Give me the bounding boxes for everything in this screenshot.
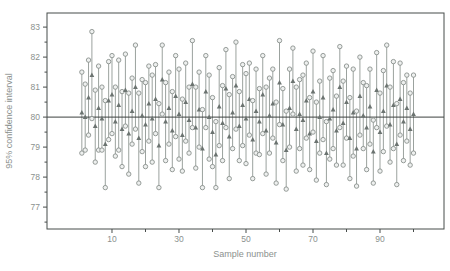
sample-mean-marker [230, 110, 235, 114]
sample-mean-marker [264, 128, 269, 132]
ci-upper-marker [311, 49, 315, 53]
ci-lower-marker [157, 185, 161, 189]
ci-lower-marker [210, 164, 214, 168]
ci-upper-marker [204, 53, 208, 57]
ci-lower-marker [140, 149, 144, 153]
ci-upper-marker [358, 55, 362, 59]
sample-mean-marker [297, 112, 302, 116]
ci-lower-marker [388, 160, 392, 164]
ci-upper-marker [116, 58, 120, 62]
ci-upper-marker [318, 79, 322, 83]
ci-lower-marker [338, 125, 342, 129]
ci-upper-marker [214, 119, 218, 123]
sample-mean-marker [167, 106, 172, 110]
ci-lower-marker [307, 167, 311, 171]
ci-upper-marker [351, 67, 355, 71]
sample-mean-marker [177, 112, 182, 116]
ci-lower-marker [106, 137, 110, 141]
sample-mean-marker [227, 134, 232, 138]
sample-mean-marker [294, 127, 299, 131]
ci-upper-marker [237, 89, 241, 93]
sample-mean-marker [381, 109, 386, 113]
ci-lower-marker [341, 163, 345, 167]
ci-upper-marker [133, 43, 137, 47]
ci-lower-marker [224, 125, 228, 129]
ci-figure: 103050709077787980818283 Sample number 9… [0, 0, 450, 271]
ci-upper-marker [96, 64, 100, 68]
ci-lower-marker [100, 148, 104, 152]
ci-lower-marker [274, 181, 278, 185]
y-tick-label: 78 [31, 172, 41, 182]
ci-upper-marker [287, 67, 291, 71]
ci-lower-marker [361, 146, 365, 150]
ci-upper-marker [220, 83, 224, 87]
ci-upper-marker [257, 86, 261, 90]
ci-upper-marker [348, 95, 352, 99]
ci-chart: 103050709077787980818283 Sample number 9… [0, 0, 450, 271]
ci-lower-marker [167, 142, 171, 146]
ci-upper-marker [167, 70, 171, 74]
ci-lower-marker [83, 148, 87, 152]
ci-upper-marker [106, 59, 110, 63]
ci-lower-marker [321, 137, 325, 141]
ci-lower-marker [348, 176, 352, 180]
sample-mean-marker [156, 143, 161, 147]
sample-mean-marker [358, 94, 363, 98]
y-tick-label: 77 [31, 202, 41, 212]
y-tick-label: 79 [31, 142, 41, 152]
sample-mean-marker [116, 103, 121, 107]
sample-mean-marker [331, 107, 336, 111]
ci-upper-marker [301, 73, 305, 77]
ci-upper-marker [90, 29, 94, 33]
ci-upper-marker [210, 95, 214, 99]
sample-mean-marker [133, 85, 138, 89]
sample-mean-marker [136, 136, 141, 140]
sample-mean-marker [79, 110, 84, 114]
ci-upper-marker [153, 62, 157, 66]
ci-lower-marker [358, 133, 362, 137]
ci-upper-marker [354, 109, 358, 113]
ci-upper-marker [197, 70, 201, 74]
ci-upper-marker [267, 76, 271, 80]
ci-upper-marker [314, 100, 318, 104]
sample-mean-marker [96, 106, 101, 110]
ci-lower-marker [217, 143, 221, 147]
ci-upper-marker [364, 83, 368, 87]
ci-upper-marker [190, 38, 194, 42]
x-tick-label: 50 [241, 234, 251, 244]
ci-lower-marker [324, 182, 328, 186]
x-tick-label: 70 [308, 234, 318, 244]
ci-lower-marker [150, 160, 154, 164]
y-tick-label: 82 [31, 52, 41, 62]
ci-upper-marker [143, 80, 147, 84]
sample-mean-marker [274, 140, 279, 144]
ci-lower-marker [294, 169, 298, 173]
sample-mean-marker [337, 85, 342, 89]
ci-upper-marker [395, 101, 399, 105]
ci-upper-marker [110, 53, 114, 57]
ci-lower-marker [204, 125, 208, 129]
sample-mean-marker [371, 149, 376, 153]
ci-upper-marker [321, 53, 325, 57]
sample-mean-marker [314, 139, 319, 143]
ci-lower-marker [173, 134, 177, 138]
ci-upper-marker [344, 64, 348, 68]
ci-upper-marker [227, 92, 231, 96]
ci-lower-marker [291, 112, 295, 116]
ci-lower-marker [187, 151, 191, 155]
ci-upper-marker [371, 118, 375, 122]
ci-lower-marker [287, 145, 291, 149]
ci-lower-marker [227, 176, 231, 180]
ci-upper-marker [338, 44, 342, 48]
ci-upper-marker [378, 91, 382, 95]
ci-lower-marker [90, 116, 94, 120]
ci-upper-marker [157, 101, 161, 105]
sample-mean-marker [257, 119, 262, 123]
ci-lower-marker [120, 164, 124, 168]
ci-upper-marker [163, 80, 167, 84]
ci-upper-marker [341, 79, 345, 83]
sample-mean-marker [368, 104, 373, 108]
ci-upper-marker [217, 65, 221, 69]
x-tick-label: 30 [174, 234, 184, 244]
chart-dynamic-layer: 103050709077787980818283 [31, 13, 444, 244]
